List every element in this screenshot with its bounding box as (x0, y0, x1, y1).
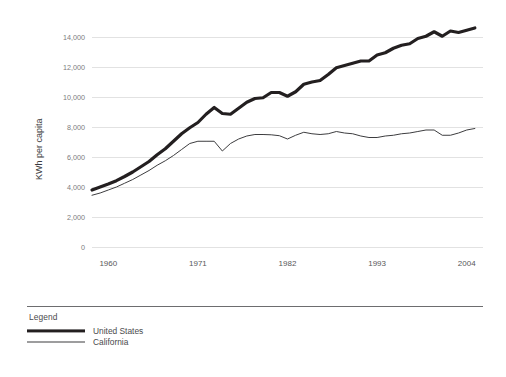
x-axis-tick-label: 1960 (99, 259, 117, 268)
thin-line-swatch (27, 336, 85, 347)
legend-item-california[interactable]: California (27, 336, 487, 347)
y-axis-tick-label: 10,000 (63, 93, 85, 102)
legend-item-united-states[interactable]: United States (27, 325, 487, 336)
data-series-group (92, 28, 475, 195)
y-axis-tick-label: 8,000 (67, 123, 85, 132)
y-axis-tick-label: 4,000 (67, 183, 85, 192)
y-axis-tick-label: 0 (81, 243, 85, 252)
chart-container: 02,0004,0006,0008,00010,00012,00014,000 … (0, 0, 506, 377)
y-axis-tick-label: 2,000 (67, 213, 85, 222)
y-axis-tick-label: 6,000 (67, 153, 85, 162)
legend-title: Legend (29, 312, 487, 322)
y-axis-tick-labels: 02,0004,0006,0008,00010,00012,00014,000 (63, 33, 85, 252)
legend-item-label: California (93, 337, 128, 347)
x-axis-tick-label: 1982 (279, 259, 297, 268)
thick-line-swatch (27, 325, 85, 336)
x-axis-tick-label: 1971 (189, 259, 207, 268)
y-axis-tick-label: 12,000 (63, 63, 85, 72)
legend-item-label: United States (93, 326, 143, 336)
line-chart-plot: 02,0004,0006,0008,00010,00012,00014,000 … (0, 0, 506, 300)
x-axis-tick-label: 2004 (458, 259, 476, 268)
x-axis-tick-labels: 19601971198219932004 (99, 259, 476, 268)
y-axis-title: KWh per capita (34, 118, 44, 180)
y-axis-tick-label: 14,000 (63, 33, 85, 42)
chart-legend: Legend United States California (27, 312, 487, 347)
x-axis-tick-label: 1993 (368, 259, 386, 268)
gridlines (92, 38, 483, 248)
series-line-united-states (92, 28, 475, 190)
